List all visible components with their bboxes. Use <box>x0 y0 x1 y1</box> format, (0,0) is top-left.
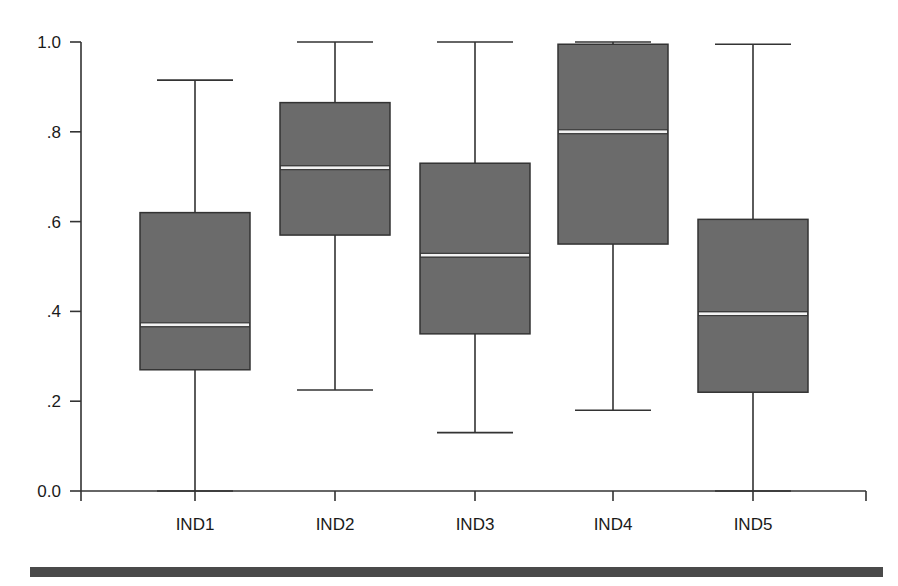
y-tick-label: 0.0 <box>37 482 61 501</box>
x-category-label: IND2 <box>316 515 355 534</box>
x-category-label: IND1 <box>176 515 215 534</box>
box-ind5 <box>698 44 808 491</box>
y-tick-label: .4 <box>47 302 61 321</box>
y-axis: 0.0.2.4.6.81.0 <box>37 33 81 501</box>
y-tick-label: .2 <box>47 392 61 411</box>
iqr-box <box>698 219 808 392</box>
bottom-rule <box>30 567 883 577</box>
iqr-box <box>558 44 668 244</box>
y-tick-label: 1.0 <box>37 33 61 52</box>
boxplot-chart: 0.0.2.4.6.81.0 IND1IND2IND3IND4IND5 <box>0 0 898 586</box>
x-category-label: IND3 <box>456 515 495 534</box>
boxes <box>140 42 808 491</box>
x-axis: IND1IND2IND3IND4IND5 <box>81 491 866 534</box>
box-ind4 <box>558 42 668 410</box>
iqr-box <box>140 213 250 370</box>
y-tick-label: .8 <box>47 123 61 142</box>
x-category-label: IND5 <box>734 515 773 534</box>
iqr-box <box>420 163 530 334</box>
box-ind3 <box>420 42 530 433</box>
box-ind1 <box>140 80 250 491</box>
box-ind2 <box>280 42 390 390</box>
y-tick-label: .6 <box>47 213 61 232</box>
x-category-label: IND4 <box>594 515 633 534</box>
